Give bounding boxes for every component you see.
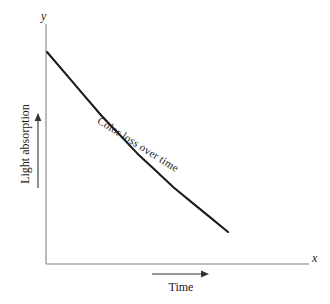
y-axis-title-group: Light absorption [9, 90, 29, 205]
y-axis-letter: y [41, 10, 46, 22]
x-axis-title: Time [150, 281, 212, 293]
x-axis-letter: x [312, 252, 317, 264]
chart-figure: y x Light absorption Time Color loss ove… [0, 0, 330, 304]
x-axis-direction-arrow-icon [152, 271, 209, 278]
y-axis-title: Light absorption [19, 88, 31, 200]
chart-plot-area [0, 0, 330, 304]
y-axis-direction-arrow-icon [35, 113, 42, 188]
